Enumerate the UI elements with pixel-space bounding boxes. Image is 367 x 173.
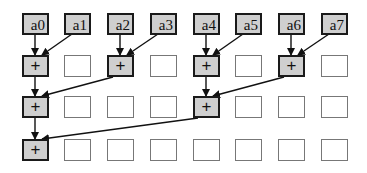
plus-symbol: + xyxy=(109,57,132,75)
input-label: a0 xyxy=(31,16,45,34)
input-box-a4: a4 xyxy=(193,13,220,35)
input-box-a1: a1 xyxy=(64,13,91,35)
empty-box xyxy=(150,139,177,161)
empty-box xyxy=(150,55,177,77)
empty-box xyxy=(150,96,177,118)
input-label: a2 xyxy=(116,16,130,34)
empty-box xyxy=(235,96,262,118)
input-box-a0: a0 xyxy=(22,13,49,35)
sum-box-l1-2: + xyxy=(107,55,134,77)
empty-box xyxy=(321,96,348,118)
sum-box-l1-6: + xyxy=(278,55,305,77)
empty-box xyxy=(193,139,220,161)
empty-box xyxy=(235,139,262,161)
sum-box-l1-0: + xyxy=(22,55,49,77)
arrow-a7-l1 xyxy=(298,34,329,55)
sum-box-l3-0: + xyxy=(22,139,49,161)
input-label: a7 xyxy=(330,16,344,34)
plus-symbol: + xyxy=(195,57,218,75)
input-box-a5: a5 xyxy=(235,13,262,35)
empty-box xyxy=(235,55,262,77)
input-box-a7: a7 xyxy=(321,13,348,35)
reduction-diagram: a0 a1 a2 a3 a4 a5 a6 a7 + + + + + + + xyxy=(0,0,367,173)
empty-box xyxy=(107,139,134,161)
empty-box xyxy=(278,96,305,118)
plus-symbol: + xyxy=(24,141,47,159)
arrow-a1-l1 xyxy=(42,34,72,55)
empty-box xyxy=(64,96,91,118)
input-label: a6 xyxy=(287,16,301,34)
plus-symbol: + xyxy=(195,98,218,116)
plus-symbol: + xyxy=(24,57,47,75)
empty-box xyxy=(321,55,348,77)
sum-box-l1-4: + xyxy=(193,55,220,77)
input-label: a1 xyxy=(73,16,87,34)
plus-symbol: + xyxy=(280,57,303,75)
input-box-a6: a6 xyxy=(278,13,305,35)
empty-box xyxy=(107,96,134,118)
arrows-layer xyxy=(0,0,367,173)
empty-box xyxy=(321,139,348,161)
sum-box-l2-4: + xyxy=(193,96,220,118)
arrow-l2-4-l3 xyxy=(42,118,198,139)
input-label: a4 xyxy=(202,16,216,34)
input-label: a5 xyxy=(244,16,258,34)
empty-box xyxy=(278,139,305,161)
empty-box xyxy=(64,55,91,77)
arrow-l1-2-l2 xyxy=(42,77,113,96)
arrow-a3-l1 xyxy=(127,34,158,55)
sum-box-l2-0: + xyxy=(22,96,49,118)
input-label: a3 xyxy=(159,16,173,34)
plus-symbol: + xyxy=(24,98,47,116)
arrow-a5-l1 xyxy=(213,34,243,55)
input-box-a2: a2 xyxy=(107,13,134,35)
arrow-l1-6-l2 xyxy=(213,77,284,96)
input-box-a3: a3 xyxy=(150,13,177,35)
empty-box xyxy=(64,139,91,161)
